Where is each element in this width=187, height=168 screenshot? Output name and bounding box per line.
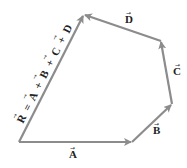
label-b: → B: [153, 120, 161, 136]
vector-b-line: [132, 105, 171, 142]
svg-text:R = A +: R = A + B + C + D: [14, 22, 74, 125]
label-a: → A: [69, 144, 77, 160]
vector-d-line: [85, 15, 161, 41]
svg-text:B: B: [153, 124, 161, 136]
svg-text:A: A: [69, 148, 77, 160]
label-d: → D: [125, 9, 133, 25]
vector-polygon-svg: → A → B → C → D R = A + B + C + D → → → …: [0, 0, 187, 168]
vector-c-line: [161, 42, 172, 104]
label-c: → C: [173, 61, 181, 77]
vector-diagram: → A → B → C → D R = A + B + C + D → → → …: [0, 0, 187, 168]
svg-text:C: C: [173, 65, 181, 77]
svg-text:D: D: [125, 13, 133, 25]
resultant-equation-label: R = A + B + C + D → → → → →: [10, 20, 75, 125]
